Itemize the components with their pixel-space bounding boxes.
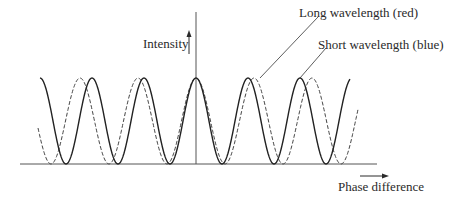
legend-long-wavelength: Long wavelength (red)	[299, 6, 418, 19]
intensity-plot	[0, 0, 449, 200]
long-wavelength-curve	[40, 78, 350, 164]
leader-line-short	[300, 48, 326, 78]
x-axis-label: Phase difference	[338, 180, 424, 193]
legend-short-wavelength: Short wavelength (blue)	[318, 38, 444, 51]
phase-arrow-icon	[360, 174, 389, 179]
interference-diagram: Intensity Long wavelength (red) Short wa…	[0, 0, 449, 200]
y-axis-label: Intensity	[143, 37, 189, 50]
leader-line-long	[260, 17, 318, 78]
